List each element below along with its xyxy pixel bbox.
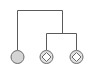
leaf-left — [11, 51, 24, 64]
branch-connector — [47, 34, 77, 51]
leaf-right — [70, 51, 83, 64]
circle-icon — [11, 51, 24, 64]
hierarchy-tree-icon — [0, 0, 89, 70]
connector-lines — [18, 11, 77, 51]
root-connector — [18, 11, 63, 51]
leaf-middle — [40, 51, 53, 64]
